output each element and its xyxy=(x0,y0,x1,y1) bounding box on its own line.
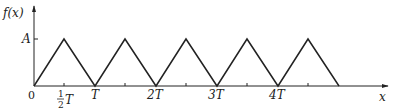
svg-text:T: T xyxy=(65,93,74,107)
svg-text:2: 2 xyxy=(58,100,64,110)
tick-label-4T: 4T xyxy=(268,88,286,102)
origin-label: 0 xyxy=(28,89,35,102)
triangle-wave-diagram: f(x) x A 0 1 2 T T 2T 3T 4T xyxy=(0,0,402,110)
tick-label-T: T xyxy=(91,88,100,102)
tick-label-half-T: 1 2 T xyxy=(57,89,74,110)
tick-label-3T: 3T xyxy=(208,88,225,102)
x-axis-label: x xyxy=(379,90,386,104)
svg-text:1: 1 xyxy=(58,89,64,99)
triangle-wave xyxy=(34,39,339,86)
tick-label-2T: 2T xyxy=(146,88,164,102)
y-axis-label: f(x) xyxy=(2,6,24,20)
amplitude-label: A xyxy=(21,32,31,46)
